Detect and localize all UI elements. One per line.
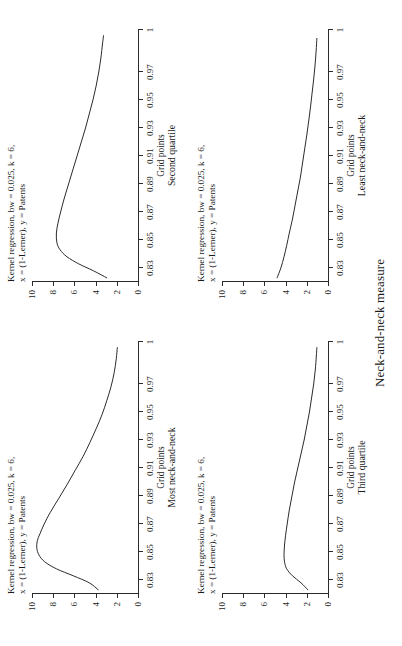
y-tick-mark <box>138 282 139 286</box>
y-tick-mark <box>53 594 54 598</box>
y-tick-mark <box>53 282 54 286</box>
x-tick-mark <box>329 551 333 552</box>
y-tick-label: 10 <box>218 290 227 316</box>
x-tick-label: 0.97 <box>335 64 345 80</box>
x-tick-label: 0.93 <box>335 120 345 136</box>
panel-caption: Most neck-and-neck <box>166 341 177 594</box>
curve-svg <box>222 342 328 594</box>
x-tick-label: 0.91 <box>145 460 155 476</box>
y-tick-mark <box>138 594 139 598</box>
x-tick-mark <box>139 467 143 468</box>
y-tick-mark <box>74 282 75 286</box>
x-tick-label: 0.89 <box>335 176 345 192</box>
y-tick-label: 10 <box>218 602 227 628</box>
x-tick-mark <box>139 211 143 212</box>
x-tick-mark <box>139 155 143 156</box>
plot-area <box>222 342 328 594</box>
x-tick-label: 0.83 <box>335 572 345 588</box>
x-tick-mark <box>139 99 143 100</box>
y-tick-mark <box>243 594 244 598</box>
panel-header-line1: Kernel regression, bw = 0.025, k = 6, <box>196 457 206 594</box>
x-tick-label: 0.97 <box>145 376 155 392</box>
rotated-figure-container: Kernel regression, bw = 0.025, k = 6, x … <box>0 0 402 646</box>
y-tick-label: 8 <box>239 602 248 628</box>
panel-caption: Second quartile <box>166 29 177 282</box>
y-tick-mark <box>222 594 223 598</box>
y-tick-mark <box>328 282 329 286</box>
y-tick-label: 0 <box>324 602 333 628</box>
figure-x-label: Neck-and-neck measure <box>372 0 388 646</box>
x-tick-mark <box>139 71 143 72</box>
y-tick-mark <box>117 594 118 598</box>
y-tick-mark <box>117 282 118 286</box>
x-tick-mark <box>329 127 333 128</box>
regression-curve <box>56 36 106 278</box>
y-tick-mark <box>307 282 308 286</box>
panel-third-quartile: Kernel regression, bw = 0.025, k = 6, x … <box>196 328 368 628</box>
x-tick-mark <box>329 341 333 342</box>
panel-header-line2: x = (1-Lerner), y = Patents <box>17 22 28 282</box>
x-tick-mark <box>329 579 333 580</box>
x-tick-mark <box>329 211 333 212</box>
panel-header-line1: Kernel regression, bw = 0.025, k = 6, <box>6 457 16 594</box>
x-axis-title: Grid points <box>156 29 166 282</box>
y-tick-mark <box>96 282 97 286</box>
x-axis-title: Grid points <box>346 29 356 282</box>
x-tick-label: 0.95 <box>145 92 155 108</box>
y-tick-label: 6 <box>70 602 79 628</box>
figure: Kernel regression, bw = 0.025, k = 6, x … <box>0 0 402 646</box>
panel-header-line2: x = (1-Lerner), y = Patents <box>207 334 218 594</box>
y-tick-label: 4 <box>281 602 290 628</box>
panel-header: Kernel regression, bw = 0.025, k = 6, x … <box>6 22 27 282</box>
x-tick-mark <box>139 439 143 440</box>
panel-header-line2: x = (1-Lerner), y = Patents <box>207 22 218 282</box>
y-tick-label: 0 <box>134 290 143 316</box>
x-tick-label: 0.97 <box>335 376 345 392</box>
x-tick-label: 0.95 <box>335 404 345 420</box>
x-tick-label: 0.95 <box>145 404 155 420</box>
x-tick-label: 1 <box>335 340 345 345</box>
panel-caption: Third quartile <box>356 341 367 594</box>
x-tick-mark <box>329 99 333 100</box>
x-tick-mark <box>329 383 333 384</box>
x-tick-label: 0.93 <box>145 432 155 448</box>
x-tick-label: 0.89 <box>145 488 155 504</box>
y-tick-mark <box>74 594 75 598</box>
y-tick-mark <box>328 594 329 598</box>
x-tick-mark <box>329 29 333 30</box>
x-axis-title: Grid points <box>156 341 166 594</box>
x-tick-label: 0.83 <box>145 572 155 588</box>
x-tick-label: 0.85 <box>145 544 155 560</box>
plot-area <box>32 342 138 594</box>
panel-header-line1: Kernel regression, bw = 0.025, k = 6, <box>6 145 16 282</box>
x-tick-label: 1 <box>335 28 345 33</box>
panel-caption: Least neck-and-neck <box>356 29 367 282</box>
x-tick-mark <box>139 495 143 496</box>
y-tick-label: 2 <box>112 290 121 316</box>
x-tick-label: 0.91 <box>145 148 155 164</box>
y-tick-label: 2 <box>302 602 311 628</box>
y-tick-mark <box>96 594 97 598</box>
x-tick-label: 0.93 <box>335 432 345 448</box>
y-tick-label: 6 <box>70 290 79 316</box>
y-tick-label: 4 <box>91 602 100 628</box>
x-tick-label: 0.87 <box>335 516 345 532</box>
x-axis-title: Grid points <box>346 341 356 594</box>
y-tick-mark <box>264 282 265 286</box>
y-tick-label: 8 <box>49 602 58 628</box>
x-tick-label: 0.91 <box>335 148 345 164</box>
x-tick-mark <box>329 523 333 524</box>
panel-header: Kernel regression, bw = 0.025, k = 6, x … <box>196 22 217 282</box>
panel-header-line1: Kernel regression, bw = 0.025, k = 6, <box>196 145 206 282</box>
y-tick-mark <box>32 282 33 286</box>
x-tick-label: 0.95 <box>335 92 345 108</box>
y-tick-mark <box>307 594 308 598</box>
x-tick-label: 0.91 <box>335 460 345 476</box>
x-tick-mark <box>139 383 143 384</box>
y-tick-label: 4 <box>281 290 290 316</box>
y-tick-label: 2 <box>302 290 311 316</box>
x-tick-label: 0.87 <box>145 516 155 532</box>
x-tick-mark <box>139 341 143 342</box>
x-tick-mark <box>329 183 333 184</box>
x-tick-label: 0.89 <box>335 488 345 504</box>
